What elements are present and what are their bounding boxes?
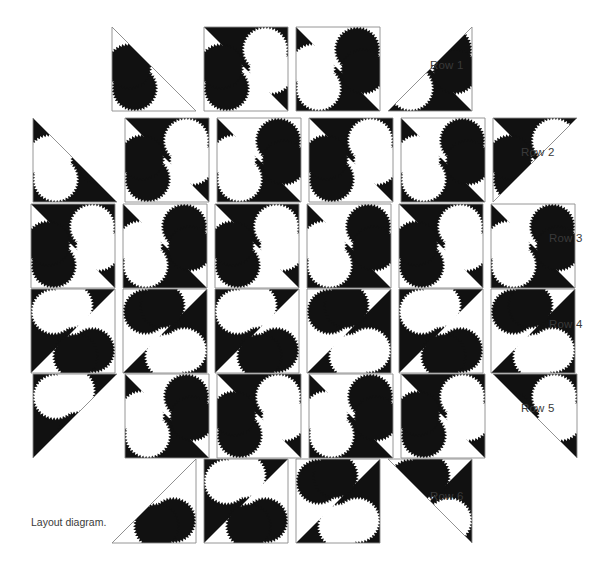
quilt-block xyxy=(116,202,213,290)
quilt-row xyxy=(26,116,583,204)
block-patch-area xyxy=(392,202,489,290)
row-label-3: Row 3 xyxy=(549,232,583,244)
quilt-block xyxy=(118,372,215,460)
figure-caption: Layout diagram. xyxy=(31,516,106,528)
quilt-block xyxy=(289,25,386,113)
block-patch-area xyxy=(300,202,397,290)
quilt-block xyxy=(210,116,307,204)
quilt-row xyxy=(110,452,474,549)
quilt-half-block xyxy=(486,116,583,204)
block-patch-area xyxy=(210,372,307,460)
block-patch-area xyxy=(208,202,305,290)
row-label-6: Row 6 xyxy=(430,490,464,502)
quilt-block xyxy=(197,25,294,113)
quilt-block xyxy=(394,116,491,204)
quilt-block xyxy=(397,282,485,379)
quilt-block xyxy=(484,202,581,290)
quilt-half-block xyxy=(26,116,123,204)
quilt-half-block xyxy=(31,367,119,464)
row-label-5: Row 5 xyxy=(521,402,555,414)
block-patch-area xyxy=(305,282,393,379)
block-patch-area xyxy=(302,116,399,204)
quilt-block xyxy=(202,452,290,549)
quilt-row xyxy=(29,282,577,379)
block-patch-area xyxy=(302,372,399,460)
scalloped-circle-patch xyxy=(111,458,158,505)
quilt-block xyxy=(29,282,117,379)
quilt-block xyxy=(210,372,307,460)
block-patch-area xyxy=(294,452,382,549)
quilt-row xyxy=(31,367,584,464)
quilt-block xyxy=(118,116,215,204)
quilt-row xyxy=(24,202,581,290)
quilt-block xyxy=(302,116,399,204)
block-patch-area xyxy=(213,282,301,379)
block-patch-area xyxy=(121,282,209,379)
quilt-block xyxy=(302,372,399,460)
quilt-block xyxy=(24,202,121,290)
block-patch-area xyxy=(289,25,386,113)
quilt-block xyxy=(305,282,393,379)
block-patch-area xyxy=(394,372,491,460)
quilt-block xyxy=(489,282,577,379)
scalloped-circle-patch xyxy=(492,412,539,459)
row-label-1: Row 1 xyxy=(430,59,464,71)
block-patch-area xyxy=(118,372,215,460)
quilt-half-block xyxy=(486,372,583,460)
quilt-block xyxy=(294,452,382,549)
quilt-block xyxy=(208,202,305,290)
quilt-block xyxy=(394,372,491,460)
block-patch-area xyxy=(210,116,307,204)
row-label-4: Row 4 xyxy=(549,318,583,330)
block-patch-area xyxy=(116,202,213,290)
scalloped-circle-patch xyxy=(150,26,197,73)
block-patch-area xyxy=(394,116,491,204)
quilt-layout-diagram xyxy=(0,0,613,570)
quilt-block xyxy=(392,202,489,290)
block-patch-area xyxy=(24,202,121,290)
quilt-block xyxy=(213,282,301,379)
block-patch-area xyxy=(484,202,581,290)
quilt-half-block xyxy=(110,452,198,549)
scalloped-circle-patch xyxy=(71,117,118,164)
quilt-block xyxy=(300,202,397,290)
quilt-row xyxy=(105,25,478,113)
block-patch-area xyxy=(29,282,117,379)
quilt-half-block xyxy=(105,25,202,113)
row-label-2: Row 2 xyxy=(521,146,555,158)
scalloped-circle-patch xyxy=(71,412,118,459)
block-patch-area xyxy=(489,282,577,379)
block-patch-area xyxy=(397,282,485,379)
block-patch-area xyxy=(118,116,215,204)
quilt-block xyxy=(121,282,209,379)
block-patch-area xyxy=(202,452,290,549)
block-patch-area xyxy=(197,25,294,113)
